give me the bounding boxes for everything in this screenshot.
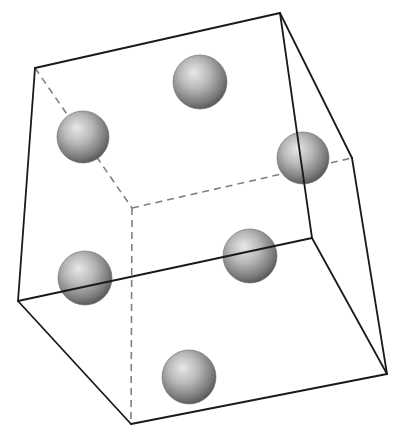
sphere-front-face — [58, 251, 112, 305]
sphere-bottom-face — [162, 350, 216, 404]
cube-diagram — [0, 0, 396, 441]
sphere-top-face — [173, 55, 227, 109]
spheres — [57, 55, 329, 404]
sphere-left-face — [57, 111, 109, 163]
cube-canvas — [0, 0, 396, 441]
edge-AE — [18, 68, 35, 301]
edge-EH — [18, 301, 131, 424]
hidden-edge-DH — [131, 208, 132, 424]
edge-AB — [35, 13, 280, 68]
